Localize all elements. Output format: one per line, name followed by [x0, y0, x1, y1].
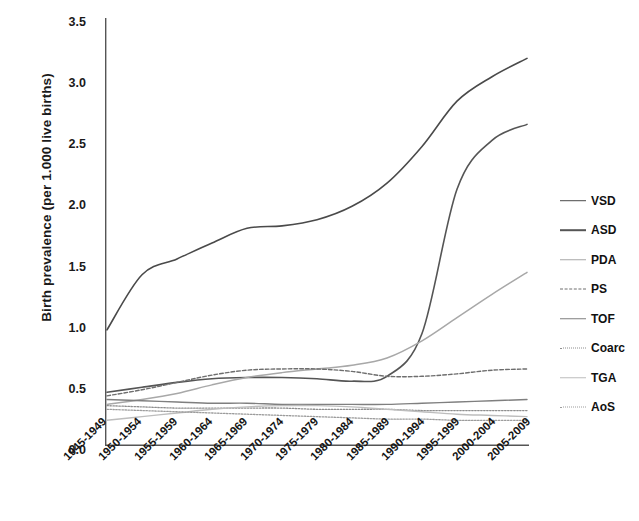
legend-label: PDA: [591, 254, 616, 266]
series-canvas: [105, 18, 529, 446]
legend-item-tga[interactable]: TGA: [560, 363, 639, 393]
legend-item-asd[interactable]: ASD: [560, 216, 639, 246]
legend-label: Coarc: [591, 342, 625, 354]
x-axis-tick-labels: 1945-19491950-19541955-19591960-19641965…: [105, 448, 565, 521]
series-line-vsd: [107, 58, 527, 329]
y-tick-label: 1.0: [40, 321, 86, 335]
chart-figure: Birth prevalence (per 1.000 live births)…: [0, 0, 639, 521]
chart-legend: VSDASDPDAPSTOFCoarcTGAAoS: [560, 186, 639, 422]
y-tick-label: 3.5: [40, 15, 86, 29]
legend-label: ASD: [591, 224, 616, 236]
legend-item-vsd[interactable]: VSD: [560, 186, 639, 216]
y-tick-label: 2.0: [40, 198, 86, 212]
series-line-tof: [107, 400, 527, 405]
series-line-ps: [107, 369, 527, 396]
legend-item-tof[interactable]: TOF: [560, 304, 639, 334]
legend-swatch-tga-icon: [560, 373, 586, 383]
legend-label: TOF: [591, 313, 615, 325]
y-tick-label: 2.5: [40, 137, 86, 151]
y-tick-label: 3.0: [40, 76, 86, 90]
legend-item-pda[interactable]: PDA: [560, 245, 639, 275]
legend-swatch-vsd-icon: [560, 196, 586, 206]
legend-swatch-aos-icon: [560, 402, 586, 412]
legend-swatch-tof-icon: [560, 314, 586, 324]
y-tick-label: 0.5: [40, 382, 86, 396]
legend-item-aos[interactable]: AoS: [560, 393, 639, 423]
legend-swatch-ps-icon: [560, 284, 586, 294]
legend-item-coarc[interactable]: Coarc: [560, 334, 639, 364]
plot-area: [105, 18, 529, 446]
legend-label: AoS: [591, 401, 615, 413]
legend-item-ps[interactable]: PS: [560, 275, 639, 305]
axis-spines: [106, 18, 529, 445]
legend-swatch-pda-icon: [560, 255, 586, 265]
legend-label: TGA: [591, 372, 616, 384]
y-tick-label: 1.5: [40, 260, 86, 274]
legend-swatch-coarc-icon: [560, 343, 586, 353]
series-line-asd: [107, 124, 527, 392]
legend-label: PS: [591, 283, 607, 295]
legend-label: VSD: [591, 195, 616, 207]
legend-swatch-asd-icon: [560, 225, 586, 235]
series-line-coarc: [107, 406, 527, 411]
